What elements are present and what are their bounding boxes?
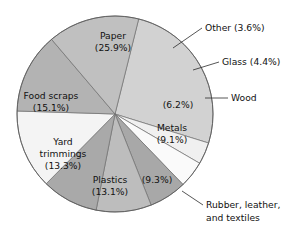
slice-label-paper-value: (25.9%)	[95, 42, 131, 53]
slice-label-metals-value: (9.1%)	[157, 134, 188, 145]
callout-label-rubber-line1: Rubber, leather,	[206, 199, 280, 210]
pie-chart-figure: Paper (25.9%) Food scraps (15.1%) Yard t…	[0, 0, 305, 238]
callout-label-other: Other (3.6%)	[205, 22, 265, 33]
slice-label-rubber-value: (9.3%)	[142, 174, 173, 185]
slice-label-yard-trimmings-line2: trimmings	[40, 148, 87, 159]
callout-label-glass: Glass (4.4%)	[222, 56, 280, 67]
slice-label-yard-trimmings-line1: Yard	[52, 136, 72, 147]
callout-label-rubber-line2: and textiles	[206, 212, 260, 223]
slice-label-yard-trimmings-value: (13.3%)	[45, 160, 81, 171]
slice-label-wood-value: (6.2%)	[163, 99, 194, 110]
slice-label-paper-name: Paper	[100, 30, 126, 41]
slice-label-plastics-name: Plastics	[93, 174, 128, 185]
slice-label-plastics-value: (13.1%)	[92, 186, 128, 197]
callout-label-wood: Wood	[231, 92, 257, 103]
slice-label-metals-name: Metals	[157, 122, 187, 133]
pie-chart-svg: Paper (25.9%) Food scraps (15.1%) Yard t…	[0, 0, 305, 238]
slice-label-food-scraps-name: Food scraps	[24, 90, 79, 101]
leader-line-rubber-leather-and-textiles	[182, 191, 203, 205]
slice-label-food-scraps-value: (15.1%)	[33, 102, 69, 113]
